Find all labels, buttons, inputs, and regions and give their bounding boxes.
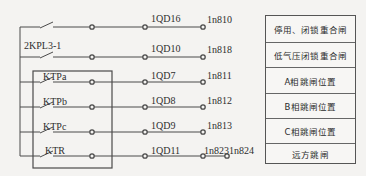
contact-label-row-4: KTPb: [43, 97, 67, 107]
terminal-block-label-row-6: 1QD11: [151, 146, 180, 156]
terminal-block-label-row-4: 1QD8: [151, 96, 175, 106]
terminal-out-label-row-6: 1n823: [204, 146, 229, 156]
terminal-block-label-row-2: 1QD10: [151, 44, 180, 54]
terminal-out-label-row-5: 1n813: [207, 121, 232, 131]
device-terminal-circle-icon: [201, 55, 205, 59]
device-terminal-circle-icon: [201, 25, 205, 29]
terminal-circle-icon: [90, 55, 94, 59]
terminal-block-label-row-5: 1QD9: [151, 121, 175, 131]
terminal-circle-icon: [90, 80, 94, 84]
terminal-out-label-row-1: 1n810: [207, 15, 232, 25]
function-cell-row-6: 远方跳闸: [266, 144, 355, 163]
function-cell-row-4: B相跳闸位置: [266, 94, 355, 119]
terminal-block-circle-icon: [143, 55, 147, 59]
contact-switch-icon: [40, 52, 53, 58]
function-cell-row-1: 停用、闭锁重合闸: [266, 16, 355, 43]
extra-terminal-label-row-6: 1n824: [229, 146, 254, 156]
terminal-block-circle-icon: [143, 154, 147, 158]
terminal-circle-icon: [90, 154, 94, 158]
terminal-out-label-row-2: 1n818: [207, 45, 232, 55]
function-cell-row-5: C相跳闸位置: [266, 119, 355, 144]
terminal-block-label-row-3: 1QD7: [151, 71, 175, 81]
terminal-block-circle-icon: [143, 80, 147, 84]
terminal-circle-icon: [90, 130, 94, 134]
wiring-diagram: 2KPL3-1 KTPa KTPb KTPc KTR 1QD16 1QD10 1…: [0, 0, 366, 176]
function-table: 停用、闭锁重合闸 低气压闭锁重合闸 A相跳闸位置 B相跳闸位置 C相跳闸位置 远…: [265, 15, 356, 164]
terminal-block-circle-icon: [143, 105, 147, 109]
contact-label-row-5: KTPc: [43, 122, 66, 132]
terminal-circle-icon: [90, 105, 94, 109]
contact-label-row-6: KTR: [45, 146, 65, 156]
terminal-block-circle-icon: [143, 25, 147, 29]
device-terminal-circle-icon: [201, 130, 205, 134]
device-terminal-circle-icon: [201, 80, 205, 84]
function-cell-row-3: A相跳闸位置: [266, 68, 355, 94]
terminal-out-label-row-3: 1n811: [207, 71, 232, 81]
function-cell-row-2: 低气压闭锁重合闸: [266, 43, 355, 68]
terminal-out-label-row-4: 1n812: [207, 96, 232, 106]
contact-label-row-2: 2KPL3-1: [24, 41, 61, 51]
contact-label-row-3: KTPa: [43, 72, 66, 82]
contact-switch-icon: [40, 22, 53, 28]
terminal-block-circle-icon: [143, 130, 147, 134]
terminal-circle-icon: [90, 25, 94, 29]
device-terminal-circle-icon: [201, 105, 205, 109]
terminal-block-label-row-1: 1QD16: [151, 14, 180, 24]
